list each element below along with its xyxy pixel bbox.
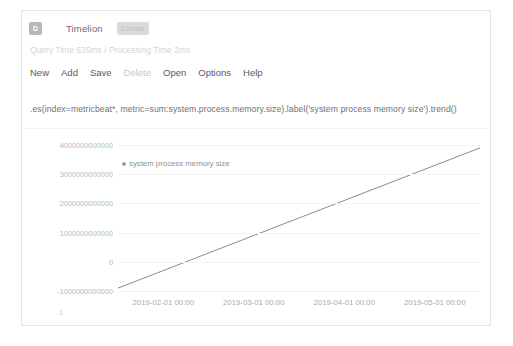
y-axis-tick-label: 4000000000000 [59, 141, 113, 150]
menu-item-delete: Delete [124, 67, 151, 78]
axis-corner-label: 1 [59, 308, 63, 317]
menu-item-help[interactable]: Help [243, 67, 263, 78]
query-stats-text: Query Time 635ms / Processing Time 2ms [22, 45, 490, 55]
series-line [118, 148, 480, 288]
y-gridline [118, 262, 480, 263]
y-gridline [118, 145, 480, 146]
y-axis-tick-label: 0 [109, 257, 113, 266]
menu-item-new[interactable]: New [30, 67, 49, 78]
legend-marker-icon [122, 162, 126, 166]
y-axis-tick-label: 2000000000000 [59, 199, 113, 208]
chart-legend: system process memory size [122, 159, 230, 168]
expression-row [22, 98, 490, 120]
y-gridline [118, 203, 480, 204]
timelion-app-panel: D Timelion Create Query Time 635ms / Pro… [21, 10, 491, 326]
menu-item-add[interactable]: Add [61, 67, 78, 78]
menu-bar: NewAddSaveDeleteOpenOptionsHelp [22, 67, 490, 78]
divider [22, 128, 490, 129]
x-axis-tick-label: 2019-02-01 00:00 [132, 298, 194, 307]
menu-item-save[interactable]: Save [90, 67, 112, 78]
y-axis-tick-label: 1000000000000 [59, 228, 113, 237]
menu-item-open[interactable]: Open [163, 67, 186, 78]
x-axis-tick-label: 2019-05-01 00:00 [404, 298, 466, 307]
status-badge: Create [117, 22, 149, 35]
timelion-chart: system process memory size 4000000000000… [22, 137, 490, 317]
expression-input[interactable] [30, 104, 482, 114]
y-gridline [118, 233, 480, 234]
kibana-logo-icon: D [29, 22, 42, 35]
y-gridline [118, 291, 480, 292]
x-axis-tick-label: 2019-03-01 00:00 [223, 298, 285, 307]
menu-item-options[interactable]: Options [198, 67, 231, 78]
app-header: D Timelion Create [22, 11, 490, 39]
legend-label: system process memory size [129, 159, 230, 168]
y-axis-tick-label: 3000000000000 [59, 170, 113, 179]
y-axis-tick-label: -1000000000000 [57, 287, 113, 296]
page-title: Timelion [66, 23, 103, 34]
x-axis-tick-label: 2019-04-01 00:00 [313, 298, 375, 307]
y-gridline [118, 174, 480, 175]
plot-area[interactable]: system process memory size 4000000000000… [118, 145, 480, 291]
